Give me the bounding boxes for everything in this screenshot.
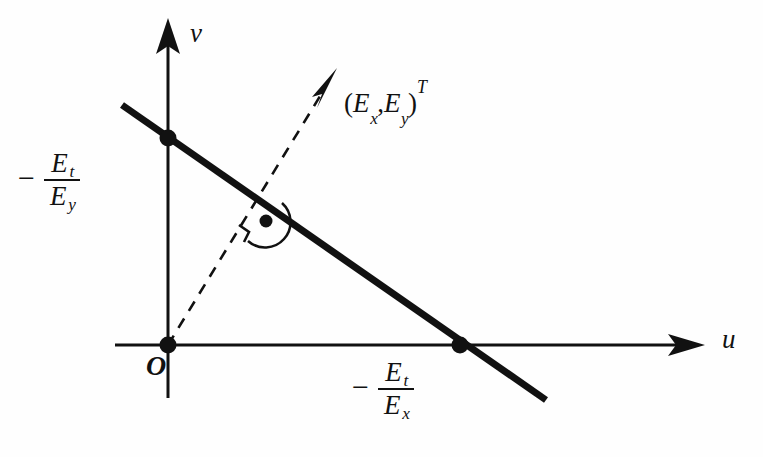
transpose-symbol: T	[417, 77, 427, 97]
gradient-x-subscript: x	[370, 109, 378, 128]
u-axis-label: u	[722, 326, 736, 353]
fraction: Et Ex	[378, 357, 414, 421]
perpendicular-corner-tick	[239, 225, 249, 242]
minus-sign: −	[352, 372, 369, 402]
perpendicular-dot	[260, 215, 273, 228]
u-intercept-point	[452, 337, 469, 354]
gradient-vector-shaft	[168, 88, 325, 345]
constraint-line	[122, 105, 546, 400]
u-intercept-label: − Et Ex	[352, 357, 414, 421]
gradient-y-subscript: y	[401, 109, 409, 128]
origin-label: O	[146, 352, 166, 380]
v-intercept-label: − Et Ey	[18, 148, 80, 212]
v-intercept-point	[160, 130, 177, 147]
figure-canvas: v u O − Et Ey − Et Ex (Ex,Ey)T	[0, 0, 763, 457]
gradient-y-symbol: E	[384, 88, 401, 118]
fraction: Et Ey	[44, 148, 80, 212]
fraction-denominator: Ey	[44, 181, 80, 212]
fraction-numerator: Et	[379, 357, 412, 388]
fraction-denominator: Ex	[378, 390, 414, 421]
fraction-numerator: Et	[45, 148, 78, 179]
minus-sign: −	[18, 163, 35, 193]
comma: ,	[377, 88, 384, 118]
gradient-x-symbol: E	[353, 88, 370, 118]
open-paren: (	[344, 88, 353, 118]
v-axis-label: v	[190, 20, 202, 47]
close-paren: )	[408, 88, 417, 118]
gradient-vector-label: (Ex,Ey)T	[344, 88, 427, 122]
